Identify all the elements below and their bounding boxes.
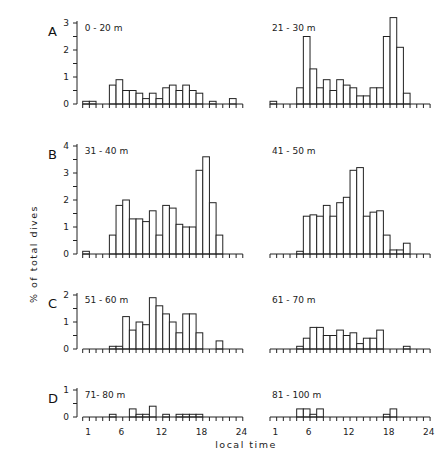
histogram-bar [129, 219, 136, 254]
histogram-bar [143, 99, 150, 104]
histogram-bar [330, 216, 337, 254]
histogram-bar [330, 336, 337, 350]
histogram-bar [169, 208, 176, 254]
histogram-bar [323, 336, 330, 350]
histogram-bar [196, 333, 203, 349]
y-tick-label: 2 [63, 45, 69, 55]
panel-title: 51 - 60 m [85, 295, 129, 305]
x-tick-label: 6 [306, 427, 312, 437]
x-tick-label: 12 [156, 427, 167, 437]
histogram-bar [123, 317, 130, 349]
histogram-bar [156, 235, 163, 254]
histogram-bar [303, 216, 310, 254]
histogram-bar [156, 99, 163, 104]
histogram-bar [337, 80, 344, 104]
panel-title: 31 - 40 m [85, 146, 129, 156]
histogram-bar [310, 215, 317, 254]
histogram-figure: A0123B01234C012D010 - 20 m21 - 30 m31 - … [0, 0, 444, 468]
histogram-bar [363, 338, 370, 349]
histogram-bar [176, 333, 183, 349]
histogram-bar [183, 227, 190, 254]
histogram-bar [149, 93, 156, 104]
histogram-bar [176, 91, 183, 105]
histogram-bar [176, 224, 183, 254]
histogram-bar [363, 216, 370, 254]
panel-b-left: 31 - 40 m [83, 146, 243, 258]
histogram-bar [143, 325, 150, 349]
panel-a-right: 21 - 30 m [270, 18, 430, 108]
histogram-bar [383, 37, 390, 105]
histogram-bar [196, 93, 203, 104]
panel-a-left: 0 - 20 m [83, 23, 243, 108]
histogram-bar [370, 338, 377, 349]
histogram-bar [403, 243, 410, 254]
histogram-bar [397, 250, 404, 254]
y-tick-label: 3 [63, 18, 69, 28]
histogram-bar [377, 211, 384, 254]
x-tick-label: 1 [85, 427, 91, 437]
histogram-bar [189, 314, 196, 349]
y-tick-label: 1 [63, 72, 69, 82]
histogram-bar [163, 205, 170, 254]
histogram-bar [383, 235, 390, 254]
histogram-bar [390, 250, 397, 254]
histogram-bar [323, 80, 330, 104]
panel-c-right: 61 - 70 m [270, 295, 430, 353]
histogram-bar [136, 93, 143, 104]
panel-title: 71- 80 m [85, 390, 126, 400]
histogram-bar [370, 88, 377, 104]
histogram-bar [377, 88, 384, 104]
histogram-bar [323, 205, 330, 254]
histogram-bar [303, 409, 310, 417]
x-tick-label: 24 [423, 427, 435, 437]
histogram-bar [143, 222, 150, 254]
histogram-bar [149, 211, 156, 254]
panel-d-left: 71- 80 m16121824 [83, 390, 248, 437]
y-tick-label: 1 [63, 317, 69, 327]
panel-title: 21 - 30 m [272, 23, 316, 33]
histogram-bar [317, 409, 324, 417]
histogram-bar [350, 88, 357, 104]
histogram-bar [149, 298, 156, 349]
x-tick-label: 18 [196, 427, 208, 437]
row-letter-d: D [48, 391, 58, 406]
histogram-bar [370, 212, 377, 254]
histogram-bar [156, 306, 163, 349]
histogram-bar [116, 205, 123, 254]
histogram-bar [350, 170, 357, 254]
histogram-bar [116, 80, 123, 104]
histogram-bar [337, 203, 344, 254]
histogram-bar [196, 170, 203, 254]
histogram-bar [109, 85, 116, 104]
histogram-bar [357, 96, 364, 104]
histogram-bar [350, 333, 357, 349]
histogram-bar [129, 330, 136, 349]
histogram-bar [317, 327, 324, 349]
histogram-bar [123, 91, 130, 105]
x-tick-label: 24 [236, 427, 248, 437]
x-axis-title: local time [215, 439, 277, 450]
histogram-bar [203, 157, 210, 254]
y-tick-label: 0 [63, 412, 69, 422]
histogram-bar [343, 336, 350, 350]
histogram-bar [363, 96, 370, 104]
y-axis-title: % of total dives [28, 205, 39, 303]
histogram-bar [216, 341, 223, 349]
histogram-bar [357, 168, 364, 254]
histogram-bar [310, 69, 317, 104]
y-tick-label: 1 [63, 385, 69, 395]
y-tick-label: 4 [63, 141, 69, 151]
panel-title: 61 - 70 m [272, 295, 316, 305]
histogram-bar [229, 99, 236, 104]
histogram-bar [343, 85, 350, 104]
histogram-bar [317, 216, 324, 254]
histogram-bar [357, 344, 364, 349]
histogram-bar [377, 330, 384, 349]
histogram-bar [390, 409, 397, 417]
histogram-bar [310, 327, 317, 349]
histogram-bar [129, 91, 136, 105]
row-letter-b: B [48, 147, 57, 162]
y-tick-label: 0 [63, 99, 69, 109]
row-letter-a: A [48, 24, 57, 39]
x-tick-label: 1 [272, 427, 278, 437]
